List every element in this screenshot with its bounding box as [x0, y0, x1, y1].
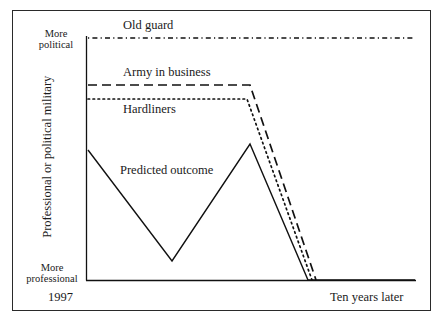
figure-container: More political More professional Profess…	[0, 0, 445, 323]
y-axis-top-label-line2: political	[39, 39, 73, 50]
series-label-predicted-outcome: Predicted outcome	[120, 164, 213, 178]
x-axis-start-label: 1997	[48, 291, 73, 305]
y-axis-title: Professional or political military	[41, 57, 55, 257]
y-axis-bottom-label-line2: professional	[26, 273, 77, 284]
series-label-old-guard: Old guard	[123, 19, 173, 33]
series-label-hardliners: Hardliners	[123, 103, 176, 117]
y-axis-top-label: More political	[28, 28, 84, 51]
series-label-army-in-business: Army in business	[123, 66, 211, 80]
y-axis-top-label-line1: More	[45, 28, 68, 39]
x-axis-end-label: Ten years later	[330, 291, 403, 305]
y-axis-bottom-label-line1: More	[41, 262, 64, 273]
series-line-hardliners	[88, 99, 312, 280]
y-axis-bottom-label: More professional	[20, 262, 84, 285]
